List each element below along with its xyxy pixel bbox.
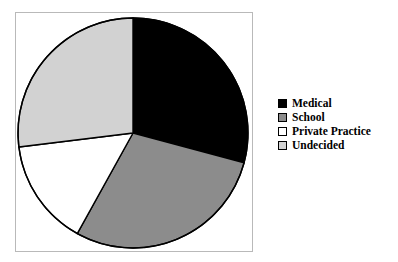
legend-item-label: Medical	[292, 97, 332, 110]
chart-legend: MedicalSchoolPrivate PracticeUndecided	[278, 96, 396, 152]
pie-slice-group	[18, 18, 248, 248]
legend-item-undecided[interactable]: Undecided	[278, 138, 396, 152]
legend-item-label: Undecided	[292, 139, 344, 152]
legend-swatch-icon	[278, 99, 287, 108]
legend-item-school[interactable]: School	[278, 110, 396, 124]
legend-item-medical[interactable]: Medical	[278, 96, 396, 110]
pie-chart-area	[0, 0, 268, 262]
pie-chart-svg	[0, 0, 268, 262]
legend-swatch-icon	[278, 113, 287, 122]
legend-swatch-icon	[278, 141, 287, 150]
legend-item-private-practice[interactable]: Private Practice	[278, 124, 396, 138]
legend-item-label: School	[292, 111, 325, 124]
legend-item-label: Private Practice	[292, 125, 371, 138]
pie-slice-undecided[interactable]	[18, 18, 133, 147]
pie-chart-figure: MedicalSchoolPrivate PracticeUndecided	[0, 0, 398, 262]
legend-swatch-icon	[278, 127, 287, 136]
